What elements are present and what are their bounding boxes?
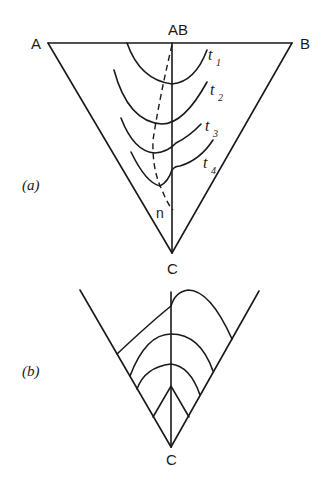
vertex-label-c: C — [167, 260, 178, 277]
svg-text:1: 1 — [216, 57, 221, 68]
phase-diagram-figure: A AB B C n (a) t 1 t 2 t 3 t 4 — [0, 0, 327, 491]
svg-text:t: t — [203, 154, 208, 171]
isotherm-label-t1: t 1 — [208, 46, 221, 68]
arc-3 — [117, 290, 232, 354]
vertex-label-c-b: C — [166, 451, 177, 468]
svg-text:t: t — [208, 46, 213, 63]
svg-text:2: 2 — [218, 92, 223, 103]
svg-text:t: t — [205, 117, 210, 134]
svg-text:4: 4 — [211, 165, 216, 176]
vertex-label-b: B — [300, 35, 310, 52]
vertex-label-a: A — [31, 35, 41, 52]
figure-a: A AB B C n (a) t 1 t 2 t 3 t 4 — [22, 21, 310, 277]
svg-text:3: 3 — [212, 128, 218, 139]
vertex-label-ab: AB — [168, 21, 188, 38]
isotherm-t1 — [127, 43, 207, 84]
svg-text:t: t — [210, 81, 215, 98]
panel-label-b: (b) — [22, 363, 40, 380]
edge-left-b — [80, 290, 171, 447]
panel-label-a: (a) — [22, 177, 40, 194]
figure-b: (b) C — [22, 290, 259, 468]
isotherm-label-t2: t 2 — [210, 81, 223, 103]
isotherm-label-t4: t 4 — [203, 154, 216, 176]
dashed-line-label: n — [156, 205, 164, 221]
isotherm-label-t3: t 3 — [205, 117, 218, 139]
edge-bc — [172, 43, 292, 253]
